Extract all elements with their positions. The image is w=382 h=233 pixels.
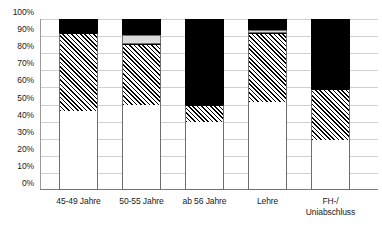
bar-2-segment-white bbox=[122, 105, 161, 191]
y-axis: 0% 10% 20% 30% 40% 50% 60% 70% 80% 90% 1… bbox=[0, 12, 36, 198]
y-tick-label-40: 40% bbox=[17, 110, 34, 119]
bar-lehre[interactable] bbox=[248, 19, 287, 190]
y-tick-label-80: 80% bbox=[17, 42, 34, 51]
bar-3-segment-black bbox=[185, 19, 224, 105]
y-tick-label-70: 70% bbox=[17, 59, 34, 68]
bar-1-segment-white bbox=[59, 111, 98, 190]
bar-4-segment-black bbox=[248, 19, 287, 30]
bar-fh-uniabschluss[interactable] bbox=[311, 19, 350, 190]
bar-3-segment-hatch bbox=[185, 105, 224, 122]
x-label-fh-uniabschluss-line1: FH-/ bbox=[292, 196, 369, 207]
stacked-bar-chart: 0% 10% 20% 30% 40% 50% 60% 70% 80% 90% 1… bbox=[0, 0, 382, 233]
bar-3-segment-white bbox=[185, 122, 224, 190]
bar-1-segment-black bbox=[59, 19, 98, 33]
bar-2-segment-hatch bbox=[122, 44, 161, 105]
y-tick-label-20: 20% bbox=[17, 144, 34, 153]
bar-1-segment-hatch bbox=[59, 33, 98, 112]
bar-4-segment-white bbox=[248, 102, 287, 190]
bar-2-segment-black bbox=[122, 19, 161, 35]
bar-4-segment-gray bbox=[248, 30, 287, 33]
bar-45-49-jahre[interactable] bbox=[59, 19, 98, 190]
x-label-fh-uniabschluss-line2: Uniabschluss bbox=[292, 207, 369, 218]
y-tick-label-0: 0% bbox=[22, 179, 34, 188]
bar-5-segment-hatch bbox=[311, 89, 350, 140]
y-tick-label-60: 60% bbox=[17, 76, 34, 85]
bar-5-segment-white bbox=[311, 140, 350, 190]
bar-4-segment-hatch bbox=[248, 33, 287, 102]
bar-50-55-jahre[interactable] bbox=[122, 19, 161, 190]
x-axis: 45-49 Jahre 50-55 Jahre ab 56 Jahre Lehr… bbox=[40, 196, 378, 232]
bar-5-segment-black bbox=[311, 19, 350, 89]
bar-ab-56-jahre[interactable] bbox=[185, 19, 224, 190]
y-tick-label-90: 90% bbox=[17, 25, 34, 34]
bar-2-segment-gray bbox=[122, 35, 161, 44]
y-tick-label-50: 50% bbox=[17, 93, 34, 102]
plot-area bbox=[40, 19, 378, 190]
x-label-fh-uniabschluss: FH-/ Uniabschluss bbox=[292, 196, 369, 218]
y-tick-label-30: 30% bbox=[17, 127, 34, 136]
y-tick-label-100: 100% bbox=[13, 8, 34, 17]
y-tick-label-10: 10% bbox=[17, 161, 34, 170]
bars-layer bbox=[40, 19, 378, 190]
